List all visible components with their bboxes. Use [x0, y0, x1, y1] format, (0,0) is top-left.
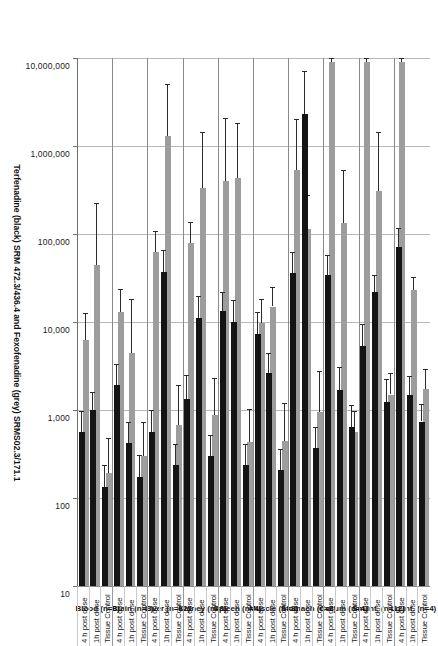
error-cap-terfenadine	[278, 449, 283, 450]
bar-terfenadine	[372, 292, 378, 586]
error-bar-fexofenadine	[378, 132, 379, 191]
error-cap-terfenadine	[173, 444, 178, 445]
error-cap-fexofenadine	[317, 371, 322, 372]
error-cap-terfenadine	[302, 71, 307, 72]
error-cap-fexofenadine	[106, 438, 111, 439]
error-bar-fexofenadine	[390, 373, 391, 395]
condition-row-separator	[241, 586, 242, 646]
condition-row-separator	[382, 586, 383, 646]
condition-row-separator	[276, 586, 277, 646]
error-cap-fexofenadine	[376, 132, 381, 133]
error-bar-fexofenadine	[131, 299, 132, 354]
error-cap-fexofenadine	[94, 203, 99, 204]
error-bar-terfenadine	[104, 465, 105, 486]
bar-terfenadine	[349, 427, 355, 586]
error-cap-fexofenadine	[329, 58, 334, 59]
error-bar-terfenadine	[304, 71, 305, 115]
x-axis-tick-label: 100,000	[38, 237, 70, 247]
error-cap-terfenadine	[208, 435, 213, 436]
error-cap-fexofenadine	[364, 58, 369, 59]
x-axis-tick-label: 10	[60, 589, 70, 599]
error-bar-terfenadine	[198, 296, 199, 318]
bar-terfenadine	[266, 373, 272, 586]
error-bar-terfenadine	[374, 275, 375, 292]
bar-terfenadine	[313, 448, 319, 586]
group-separator-panel	[359, 586, 360, 646]
error-bar-terfenadine	[151, 410, 152, 432]
error-bar-fexofenadine	[155, 231, 156, 252]
error-cap-terfenadine	[79, 411, 84, 412]
bar-terfenadine	[243, 465, 249, 586]
error-cap-terfenadine	[337, 367, 342, 368]
error-cap-terfenadine	[255, 312, 260, 313]
error-cap-fexofenadine	[129, 299, 134, 300]
bar-terfenadine	[255, 334, 261, 586]
error-bar-terfenadine	[163, 250, 164, 272]
group-separator-panel	[112, 586, 113, 646]
error-cap-terfenadine	[231, 300, 236, 301]
error-bar-fexofenadine	[272, 287, 273, 306]
group-separator	[359, 58, 360, 587]
error-bar-fexofenadine	[202, 132, 203, 188]
condition-row-separator	[335, 586, 336, 646]
error-bar-fexofenadine	[237, 123, 238, 178]
error-bar-terfenadine	[139, 455, 140, 476]
x-axis-tick	[73, 146, 78, 147]
group-separator-panel	[218, 586, 219, 646]
condition-row-separator	[100, 586, 101, 646]
error-cap-fexofenadine	[423, 369, 428, 370]
error-cap-fexofenadine	[153, 231, 158, 232]
bar-terfenadine	[360, 346, 366, 586]
error-cap-fexofenadine	[223, 118, 228, 119]
bar-terfenadine	[126, 443, 132, 586]
bar-terfenadine	[102, 487, 108, 586]
group-separator	[112, 58, 113, 587]
group-separator	[394, 58, 395, 587]
condition-row-separator	[406, 586, 407, 646]
x-axis-tick-label: 10,000	[43, 325, 70, 335]
x-axis-tick-label: 1,000	[48, 413, 70, 423]
x-axis-title-holder: Terfenadine (black) SRM 472.3/436.4 and …	[8, 58, 22, 586]
error-cap-terfenadine	[196, 296, 201, 297]
condition-row-separator	[300, 586, 301, 646]
bar-terfenadine	[290, 273, 296, 586]
error-cap-fexofenadine	[165, 84, 170, 85]
group-separator-panel	[183, 586, 184, 646]
error-bar-fexofenadine	[413, 277, 414, 291]
error-cap-terfenadine	[349, 405, 354, 406]
group-separator	[147, 58, 148, 587]
group-separator-panel	[147, 586, 148, 646]
error-cap-fexofenadine	[270, 287, 275, 288]
error-cap-fexofenadine	[294, 119, 299, 120]
error-cap-terfenadine	[184, 375, 189, 376]
error-cap-fexofenadine	[235, 123, 240, 124]
error-bar-terfenadine	[398, 228, 399, 246]
x-axis-tick	[73, 58, 78, 59]
bar-terfenadine	[90, 410, 96, 586]
error-bar-fexofenadine	[284, 403, 285, 440]
error-bar-terfenadine	[280, 449, 281, 470]
bar-terfenadine	[278, 470, 284, 586]
condition-row-separator	[312, 586, 313, 646]
error-cap-terfenadine	[137, 455, 142, 456]
error-cap-terfenadine	[419, 404, 424, 405]
condition-row-separator	[89, 586, 90, 646]
group-label-blood: Blood (n=8)	[62, 604, 132, 613]
error-bar-terfenadine	[210, 435, 211, 456]
error-cap-terfenadine	[149, 410, 154, 411]
error-bar-terfenadine	[327, 255, 328, 275]
x-axis-tick	[73, 322, 78, 323]
bar-terfenadine	[419, 422, 425, 586]
error-cap-fexofenadine	[282, 403, 287, 404]
condition-row-separator	[159, 586, 160, 646]
error-cap-fexofenadine	[341, 170, 346, 171]
condition-row-separator	[206, 586, 207, 646]
condition-row-separator	[370, 586, 371, 646]
group-separator-panel	[394, 586, 395, 646]
bar-terfenadine	[220, 311, 226, 586]
error-bar-fexofenadine	[343, 170, 344, 223]
error-bar-fexofenadine	[190, 222, 191, 243]
x-axis-tick	[73, 234, 78, 235]
bar-terfenadine	[79, 432, 85, 586]
bar-terfenadine	[184, 399, 190, 586]
